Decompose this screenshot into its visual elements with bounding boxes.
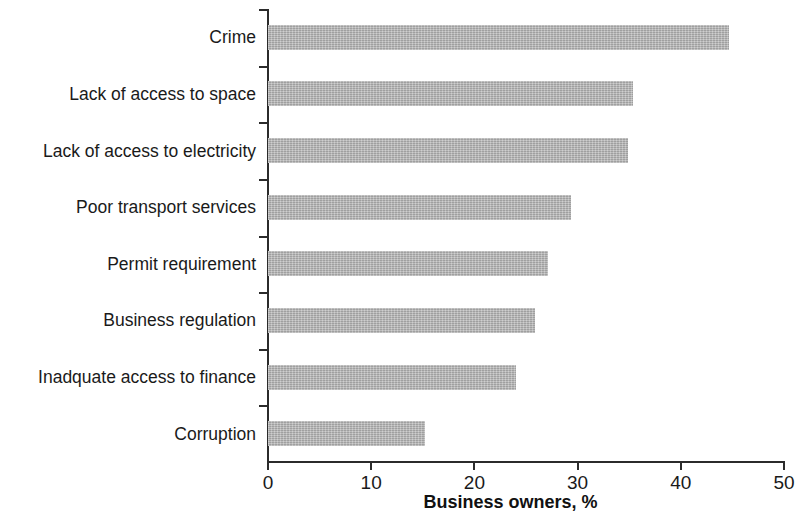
y-axis-tick xyxy=(259,292,268,294)
x-axis-title: Business owners, % xyxy=(0,492,801,513)
x-axis-tick xyxy=(783,461,785,470)
x-axis-tick xyxy=(267,461,269,470)
y-axis-tick xyxy=(259,179,268,181)
y-axis-tick xyxy=(259,66,268,68)
y-axis-tick-top xyxy=(259,9,268,11)
category-label: Inadquate access to finance xyxy=(38,367,256,387)
category-label: Lack of access to electricity xyxy=(43,141,256,161)
bar xyxy=(268,81,633,106)
y-axis-tick xyxy=(259,236,268,238)
category-label: Business regulation xyxy=(103,310,256,330)
bar xyxy=(268,251,548,276)
y-axis-tick xyxy=(259,405,268,407)
category-label: Permit requirement xyxy=(107,254,256,274)
y-axis-tick xyxy=(259,349,268,351)
x-axis-tick xyxy=(577,461,579,470)
x-tick-label: 50 xyxy=(773,472,794,494)
bar xyxy=(268,195,571,220)
category-label: Lack of access to space xyxy=(69,84,256,104)
bar xyxy=(268,365,516,390)
bar-chart: CrimeLack of access to spaceLack of acce… xyxy=(0,0,801,515)
x-tick-label: 30 xyxy=(567,472,588,494)
x-axis-tick xyxy=(680,461,682,470)
bar xyxy=(268,421,425,446)
plot-area xyxy=(268,9,784,462)
x-tick-label: 10 xyxy=(361,472,382,494)
x-axis-tick xyxy=(370,461,372,470)
category-label: Corruption xyxy=(174,424,256,444)
category-label: Crime xyxy=(209,27,256,47)
x-tick-label: 0 xyxy=(263,472,274,494)
y-axis-tick xyxy=(259,122,268,124)
x-axis-title-text: Business owners, % xyxy=(423,492,597,513)
x-tick-label: 20 xyxy=(464,472,485,494)
bar xyxy=(268,138,628,163)
x-tick-label: 40 xyxy=(670,472,691,494)
bar xyxy=(268,25,729,50)
x-axis-tick xyxy=(473,461,475,470)
bar xyxy=(268,308,535,333)
category-label: Poor transport services xyxy=(76,197,256,217)
